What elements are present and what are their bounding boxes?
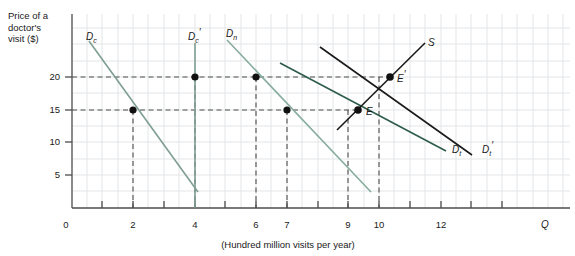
y-tick-10: 10 xyxy=(49,136,60,147)
x-axis-caption: (Hundred million visits per year) xyxy=(221,239,355,250)
y-tick-5: 5 xyxy=(55,169,60,180)
label-dn: Dn xyxy=(226,28,237,41)
point-4-20 xyxy=(191,73,198,80)
label-equilibrium-e: E xyxy=(366,106,373,117)
x-tick-7: 7 xyxy=(284,219,289,230)
x-tick-9: 9 xyxy=(345,219,350,230)
curve-dc xyxy=(89,41,198,192)
x-tick-6: 6 xyxy=(253,219,258,230)
point-2-15 xyxy=(129,106,136,113)
grid-lines xyxy=(72,14,570,208)
x-axis-symbol: Q xyxy=(541,219,549,230)
point-equilibrium-e xyxy=(354,106,362,114)
curve-dt xyxy=(280,63,446,151)
x-tick-4: 4 xyxy=(192,219,197,230)
y-axis-title: Price of a doctor's visit ($) xyxy=(8,10,68,45)
x-axis-tick-labels: 2 4 6 7 9 10 12 xyxy=(130,219,446,230)
point-equilibrium-e-prime xyxy=(386,73,394,81)
curve-dt-prime xyxy=(320,47,472,155)
chart-svg: 20 15 10 5 0 2 4 6 7 9 xyxy=(0,0,575,256)
curve-labels: Dc Dc′ Dn Dt Dt′ S xyxy=(86,27,494,157)
y-axis-tick-labels: 20 15 10 5 0 xyxy=(49,71,68,230)
y-tick-20: 20 xyxy=(49,71,60,82)
axes xyxy=(72,14,570,208)
point-6-20 xyxy=(252,73,259,80)
label-s: S xyxy=(428,37,435,48)
label-dt: Dt xyxy=(452,144,462,157)
point-7-15 xyxy=(283,106,290,113)
y-axis-ticks xyxy=(65,77,72,175)
label-dc: Dc xyxy=(86,31,97,44)
curve-dn xyxy=(227,40,371,192)
label-equilibrium-e-prime: E′ xyxy=(397,69,407,84)
x-tick-12: 12 xyxy=(436,219,447,230)
economics-supply-demand-chart: Price of a doctor's visit ($) xyxy=(0,0,575,256)
origin-label: 0 xyxy=(63,219,68,230)
y-tick-15: 15 xyxy=(49,104,60,115)
x-tick-2: 2 xyxy=(130,219,135,230)
x-tick-10: 10 xyxy=(374,219,385,230)
